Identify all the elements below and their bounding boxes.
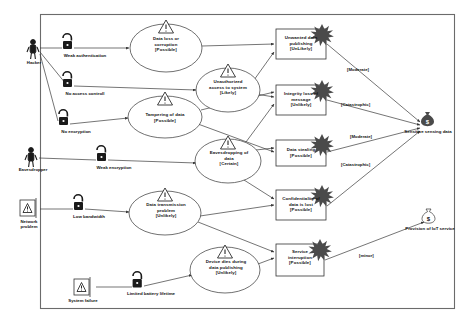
open-padlock-icon <box>97 146 106 161</box>
consequence-label: Confidentiality of data is lost [Possibl… <box>277 196 325 213</box>
money-bag-icon: $ <box>421 112 434 126</box>
impact-label: [Catastrophic] <box>341 162 370 167</box>
warning-box-icons <box>20 198 90 297</box>
threat-label: Data transmission problem [Unlikely] <box>130 202 202 219</box>
actor-label: Hacker <box>18 60 50 65</box>
consequence-label: Data stealing [Possible] <box>277 147 325 158</box>
diagram-canvas: $ $ Data loss or corruption [Possible] U… <box>0 0 476 325</box>
person-icon <box>27 40 39 59</box>
open-padlock-icon <box>63 34 72 49</box>
threat-label: Eavesdropping of data [Certain] <box>196 150 262 167</box>
starburst-icons <box>308 24 333 261</box>
vulnerability-label: Limited battery lifetime <box>108 291 194 296</box>
vulnerability-label: Low bandwidth <box>58 214 120 219</box>
threat-label: Data loss or corruption [Possible] <box>131 36 201 53</box>
threat-label: Tampering of data [Possible] <box>129 112 201 123</box>
open-padlock-icon <box>74 195 83 210</box>
actor-label: System failure <box>62 298 104 303</box>
threat-label: Device dies during data publishing [Unli… <box>191 259 261 276</box>
impact-label: [minor] <box>359 253 374 258</box>
vulnerability-label: Weak encryption <box>81 165 147 170</box>
actor-label: Network problem <box>12 219 46 229</box>
consequence-label: Integrity loss of message [Unlikely] <box>277 91 325 108</box>
vulnerability-label: No encryption <box>45 129 107 134</box>
impact-label: [Moderate] <box>350 134 372 139</box>
asset-label: Sensitive sensing data <box>385 129 471 134</box>
threat-label: Unauthorized access to system [Likely] <box>196 79 260 96</box>
vulnerability-label: Weak authentication <box>48 53 122 58</box>
closed-padlock-icon <box>133 272 142 288</box>
open-padlock-icon <box>59 110 68 125</box>
asset-label: Provision of IoT service <box>384 226 476 231</box>
impact-label: [Catastrophic] <box>341 102 370 107</box>
open-padlock-icon <box>63 72 72 87</box>
consequence-label: Unwanted data publishing [UnLikely] <box>277 35 325 52</box>
actor-label: Eavesdropper <box>10 167 56 172</box>
warning-box-icon <box>20 198 36 218</box>
money-bag-icon: $ <box>422 209 435 223</box>
consequence-label: Service interuption [Possible] <box>277 249 323 266</box>
actor-icons <box>25 40 39 167</box>
warning-box-icon <box>74 277 90 297</box>
person-icon <box>25 148 37 167</box>
vulnerability-label: No access controll <box>49 91 121 96</box>
impact-label: [Moderate] <box>347 67 369 72</box>
